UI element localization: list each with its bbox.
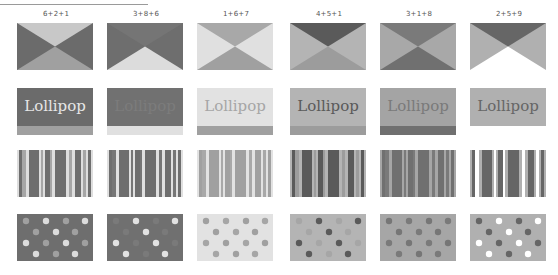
stripe [119, 150, 129, 197]
dot [386, 218, 392, 224]
dot [525, 229, 531, 235]
header-divider [0, 4, 148, 5]
stripe [75, 150, 81, 197]
card-label: 4+5+1 [290, 10, 368, 18]
dot [252, 251, 258, 257]
dot [476, 240, 482, 246]
stripes-graphic [107, 150, 183, 197]
dot [153, 240, 159, 246]
stripe [361, 150, 364, 197]
stripe [45, 150, 50, 197]
triangles-swatch [470, 23, 546, 70]
lollipop-swatch: Lollipop [107, 88, 183, 135]
dot [213, 229, 219, 235]
dots-swatch [380, 214, 456, 261]
dot [535, 240, 541, 246]
stripe [451, 150, 454, 197]
dot [345, 251, 351, 257]
stripe [302, 150, 312, 197]
stripe [112, 150, 116, 197]
dot [113, 240, 119, 246]
triangles-swatch [197, 23, 273, 70]
dot [396, 251, 402, 257]
dot [516, 240, 522, 246]
dot [63, 218, 69, 224]
stripes-swatch [197, 150, 273, 197]
stripe [318, 150, 323, 197]
dot [143, 251, 149, 257]
dot [535, 218, 541, 224]
dot [326, 251, 332, 257]
dot [82, 240, 88, 246]
dot [23, 218, 29, 224]
stripe [498, 150, 503, 197]
dot [506, 251, 512, 257]
dot [53, 229, 59, 235]
lollipop-swatch: Lollipop [380, 88, 456, 135]
dot [223, 218, 229, 224]
triangles-graphic [380, 23, 456, 70]
lollipop-swatch: Lollipop [197, 88, 273, 135]
stripe [235, 150, 246, 197]
dot [72, 229, 78, 235]
stripe [418, 150, 429, 197]
stripe [503, 150, 505, 197]
dot [43, 240, 49, 246]
dot [162, 251, 168, 257]
dot [516, 218, 522, 224]
stripe [295, 150, 299, 197]
stripe [392, 150, 402, 197]
stripes-graphic [380, 150, 456, 197]
dot [82, 218, 88, 224]
card-label: 6+2+1 [17, 10, 95, 18]
stripe [140, 150, 142, 197]
dot [336, 240, 342, 246]
lollipop-text: Lollipop [290, 96, 366, 116]
stripe [165, 150, 171, 197]
stripe [263, 150, 266, 197]
dot [113, 218, 119, 224]
dots-graphic [107, 214, 183, 261]
stripe [446, 150, 449, 197]
lollipop-bar [197, 126, 273, 135]
dots-swatch [107, 214, 183, 261]
dot [486, 251, 492, 257]
dot [445, 240, 451, 246]
stripe [268, 150, 271, 197]
dot [172, 240, 178, 246]
lollipop-bar [107, 126, 183, 135]
dot [355, 218, 361, 224]
stripe [508, 150, 519, 197]
stripe [528, 150, 534, 197]
stripe [19, 150, 22, 197]
dot [153, 218, 159, 224]
stripes-swatch [17, 150, 93, 197]
dot [43, 218, 49, 224]
card-label: 3+8+6 [107, 10, 185, 18]
stripes-swatch [107, 150, 183, 197]
stripe [199, 150, 202, 197]
stripe [159, 150, 162, 197]
dot [296, 218, 302, 224]
card-label: 2+5+9 [470, 10, 548, 18]
stripe [88, 150, 91, 197]
lollipop-swatch: Lollipop [290, 88, 366, 135]
dot [316, 240, 322, 246]
stripe [328, 150, 339, 197]
dot [396, 229, 402, 235]
stripes-graphic [17, 150, 93, 197]
dot [445, 218, 451, 224]
card-label: 3+1+8 [380, 10, 458, 18]
dots-graphic [17, 214, 93, 261]
lollipop-text: Lollipop [380, 96, 456, 116]
stripe [22, 150, 26, 197]
dot [336, 218, 342, 224]
triangles-swatch [290, 23, 366, 70]
lollipop-bar [380, 126, 456, 135]
dot [435, 251, 441, 257]
stripe [356, 150, 359, 197]
dot [133, 240, 139, 246]
stripes-graphic [197, 150, 273, 197]
dot [435, 229, 441, 235]
dot [355, 240, 361, 246]
